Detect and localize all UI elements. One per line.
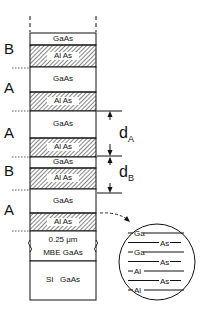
layer-label: GaAs (47, 35, 79, 43)
inset-atom-label: As (160, 258, 169, 267)
substrate-label: SI GaAs (30, 276, 96, 284)
zoom-arrowhead (124, 216, 130, 222)
inset-atom-label: Al (134, 286, 141, 295)
buffer-material-label: MBE GaAs (30, 249, 96, 257)
inset-atom-label: Al (134, 267, 141, 276)
zoom-arrow (100, 213, 128, 220)
layer-label: Al As (47, 218, 79, 226)
inset-atom-label: As (160, 277, 169, 286)
layer-label: GaAs (47, 120, 79, 128)
layer-label: Al As (47, 174, 79, 182)
inset-atom-label: As (160, 239, 169, 248)
layer-label: Al As (47, 143, 79, 151)
inset-atom-label: Ga (134, 229, 145, 238)
layer-label: GaAs (47, 158, 79, 166)
period-label: A (4, 202, 14, 217)
period-label: A (4, 80, 14, 95)
dimension-arrows (108, 111, 113, 193)
period-label: A (4, 125, 14, 140)
dA-label: dA (119, 125, 134, 144)
period-label: B (4, 163, 14, 178)
dB-label: dB (119, 164, 134, 183)
inset-atom-label: Ga (134, 248, 145, 257)
layer-label: GaAs (47, 75, 79, 83)
buffer-thickness-label: 0.25 μm (30, 236, 96, 244)
layer-label: Al As (47, 97, 79, 105)
period-label: B (4, 41, 14, 56)
layer-label: GaAs (47, 197, 79, 205)
diagram-canvas: GaAsGaAsAlAsAl (0, 0, 209, 312)
period-separators (12, 68, 29, 231)
layer-label: Al As (47, 52, 79, 60)
